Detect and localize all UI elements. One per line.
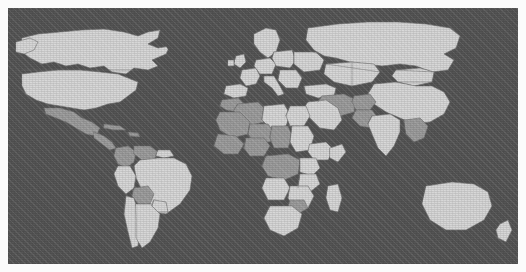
page-margin-left [0,0,8,272]
world-map-figure [0,0,526,272]
region-angola[interactable] [262,178,290,200]
page-margin-bottom [0,264,526,272]
page-margin-top [0,0,526,8]
page-margin-right [518,0,526,272]
world-map-svg[interactable] [8,8,518,264]
map-canvas[interactable] [8,8,518,264]
region-ireland[interactable] [228,60,234,66]
region-chad[interactable] [270,126,292,148]
